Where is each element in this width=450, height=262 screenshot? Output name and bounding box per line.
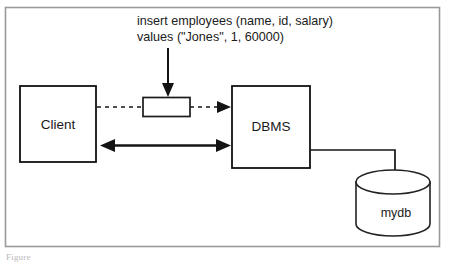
dbms-label: DBMS <box>251 119 290 134</box>
query-text-line-2: values ("Jones", 1, 60000) <box>137 30 284 44</box>
database-cylinder-top <box>356 170 430 194</box>
figure-caption: Figure <box>6 252 31 262</box>
client-label: Client <box>41 117 76 132</box>
database-label: mydb <box>381 206 412 220</box>
query-packet-box <box>143 98 190 117</box>
query-text-line-1: insert employees (name, id, salary) <box>137 14 333 28</box>
